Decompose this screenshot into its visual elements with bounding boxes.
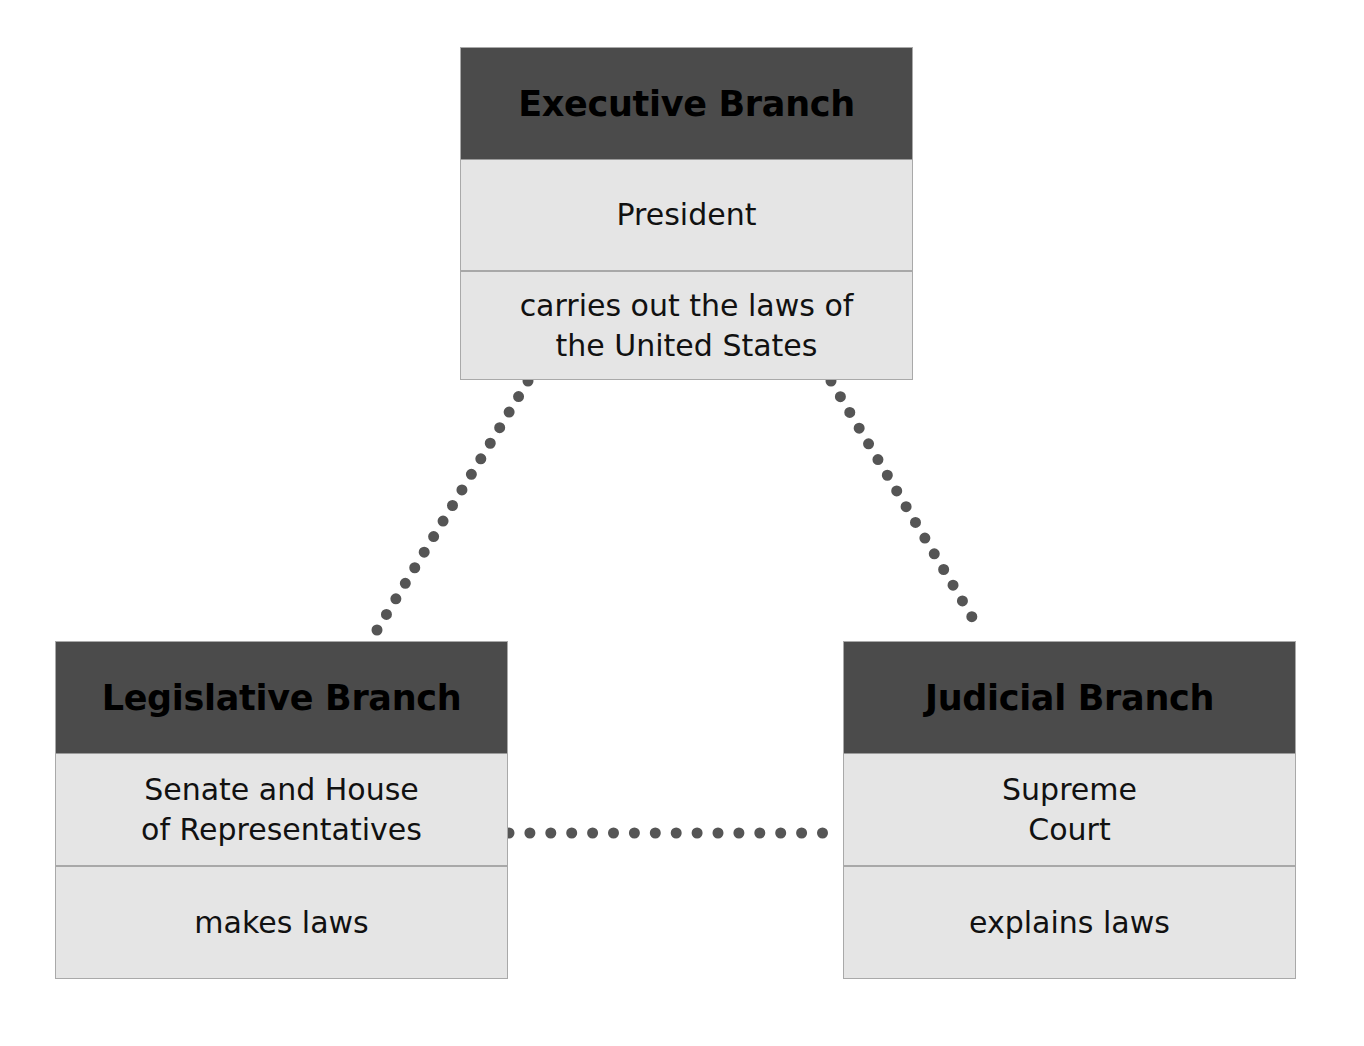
legislative-branch-role: makes laws: [56, 865, 507, 978]
legislative-branch-box: Legislative Branch Senate and House of R…: [55, 641, 508, 979]
judicial-branch-box: Judicial Branch Supreme Court explains l…: [843, 641, 1296, 979]
judicial-branch-title: Judicial Branch: [844, 642, 1295, 754]
judicial-branch-role: explains laws: [844, 865, 1295, 978]
executive-branch-title: Executive Branch: [461, 48, 912, 160]
judicial-branch-members: Supreme Court: [844, 754, 1295, 865]
connector-executive-legislative: [377, 381, 528, 630]
executive-branch-box: Executive Branch President carries out t…: [460, 47, 913, 380]
executive-branch-role: carries out the laws of the United State…: [461, 270, 912, 379]
connector-executive-judicial: [831, 381, 981, 632]
legislative-branch-title: Legislative Branch: [56, 642, 507, 754]
branches-of-government-diagram: Executive Branch President carries out t…: [0, 0, 1364, 1046]
executive-branch-members: President: [461, 160, 912, 270]
legislative-branch-members: Senate and House of Representatives: [56, 754, 507, 865]
